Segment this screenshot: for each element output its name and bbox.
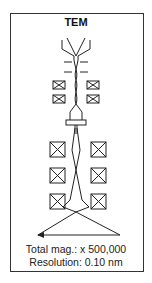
image-arrow-icon bbox=[37, 232, 44, 238]
objective-lens-icon bbox=[50, 142, 106, 209]
specimen-holder-icon bbox=[66, 120, 86, 134]
magnification-label: Total mag.: x 500,000 bbox=[0, 243, 152, 255]
tem-schematic bbox=[0, 0, 152, 283]
electron-source-icon bbox=[62, 38, 90, 56]
resolution-label: Resolution: 0.10 nm bbox=[0, 256, 152, 268]
electron-beam-path bbox=[70, 56, 82, 120]
